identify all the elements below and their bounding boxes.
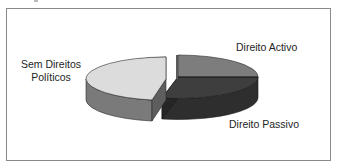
label-direito-activo: Direito Activo bbox=[236, 41, 297, 54]
pie-chart bbox=[0, 0, 338, 168]
label-sem-direitos-line2: Políticos bbox=[18, 71, 84, 84]
slice-direito-activo bbox=[176, 55, 258, 79]
slice-sem-direitos-politicos bbox=[86, 57, 166, 121]
label-sem-direitos-politicos: Sem Direitos Políticos bbox=[18, 58, 84, 84]
slice-direito-passivo bbox=[162, 77, 258, 119]
label-direito-passivo: Direito Passivo bbox=[229, 118, 299, 131]
label-sem-direitos-line1: Sem Direitos bbox=[18, 58, 84, 71]
